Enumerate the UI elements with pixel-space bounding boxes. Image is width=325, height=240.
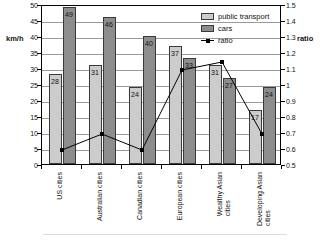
bar-cars-3 xyxy=(183,58,196,164)
bar-value-label: 17 xyxy=(247,114,264,121)
y-axis-right-tick-label: 1.1 xyxy=(286,66,316,73)
y-axis-left-tick-label: 45 xyxy=(8,18,38,25)
gridline xyxy=(42,102,280,103)
gridline xyxy=(42,118,280,119)
legend-swatch-icon xyxy=(201,25,214,32)
y-axis-left-tick-label: 50 xyxy=(8,2,38,9)
bar-value-label: 37 xyxy=(167,50,184,57)
y-axis-left-tickmark xyxy=(37,117,41,118)
y-axis-right-tick-label: 1.5 xyxy=(286,2,316,9)
x-axis-tickmark xyxy=(41,165,42,169)
y-axis-left-tick-label: 15 xyxy=(8,114,38,121)
x-axis-tickmark xyxy=(161,165,162,169)
y-axis-left-tick-label: 35 xyxy=(8,50,38,57)
y-axis-right-tickmark xyxy=(281,101,285,102)
x-axis-tickmark xyxy=(81,165,82,169)
x-axis-category-label: Wealthy Asian cities xyxy=(216,172,232,216)
y-axis-right-tickmark xyxy=(281,85,285,86)
bar-pt-0 xyxy=(49,74,62,164)
y-axis-left-tick-label: 0 xyxy=(8,162,38,169)
ratio-marker xyxy=(220,60,224,64)
y-axis-right-tickmark xyxy=(281,133,285,134)
y-axis-right-tick-label: 0.8 xyxy=(286,114,316,121)
bar-value-label: 24 xyxy=(127,91,144,98)
y-axis-left-tickmark xyxy=(37,37,41,38)
y-axis-left-tickmark xyxy=(37,133,41,134)
bar-value-label: 28 xyxy=(47,78,64,85)
y-axis-right-tick-label: 0.7 xyxy=(286,130,316,137)
y-axis-right-tickmark xyxy=(281,69,285,70)
bar-cars-2 xyxy=(143,36,156,164)
x-axis-category-label: European cities xyxy=(176,172,184,220)
y-axis-right-tickmark xyxy=(281,5,285,6)
y-axis-right-tick-label: 0.5 xyxy=(286,162,316,169)
x-axis-category-label: Developing Asian cities xyxy=(256,172,272,226)
bar-value-label: 49 xyxy=(61,11,78,18)
x-axis-tickmark xyxy=(121,165,122,169)
legend-item[interactable]: cars xyxy=(201,23,296,34)
bar-value-label: 24 xyxy=(261,91,278,98)
y-axis-left-tickmark xyxy=(37,69,41,70)
bar-value-label: 40 xyxy=(141,40,158,47)
bar-cars-0 xyxy=(63,7,76,164)
gridline xyxy=(42,134,280,135)
gridline xyxy=(42,86,280,87)
gridline xyxy=(42,70,280,71)
legend-item[interactable]: ratio xyxy=(201,35,296,46)
chart-legend: public transportcarsratio xyxy=(201,11,296,47)
chart-container: km/h ratio 284931462440373331271724 0510… xyxy=(0,0,325,240)
y-axis-right-tickmark xyxy=(281,53,285,54)
legend-swatch-icon xyxy=(201,13,214,20)
y-axis-left-tickmark xyxy=(37,21,41,22)
bar-cars-4 xyxy=(223,78,236,164)
legend-item[interactable]: public transport xyxy=(201,11,296,22)
x-axis-category-label: Australian cities xyxy=(96,172,104,221)
y-axis-left-tick-label: 20 xyxy=(8,98,38,105)
y-axis-left-tickmark xyxy=(37,85,41,86)
gridline xyxy=(42,54,280,55)
y-axis-left-tick-label: 40 xyxy=(8,34,38,41)
y-axis-right-tick-label: 0.9 xyxy=(286,98,316,105)
x-axis-tickmark xyxy=(241,165,242,169)
bar-value-label: 33 xyxy=(181,62,198,69)
legend-label: cars xyxy=(218,24,232,33)
legend-line-marker-icon xyxy=(201,37,214,44)
y-axis-right-tick-label: 1.2 xyxy=(286,50,316,57)
x-axis-tickmark xyxy=(201,165,202,169)
x-axis-category-label: US cities xyxy=(56,172,64,200)
bottom-divider xyxy=(43,234,287,235)
legend-label: public transport xyxy=(218,12,269,21)
y-axis-right-tickmark xyxy=(281,149,285,150)
y-axis-left-tickmark xyxy=(37,101,41,102)
bar-value-label: 27 xyxy=(221,82,238,89)
y-axis-left-tick-label: 30 xyxy=(8,66,38,73)
y-axis-left-tick-label: 10 xyxy=(8,130,38,137)
bar-cars-5 xyxy=(263,87,276,164)
x-axis-tickmark xyxy=(281,165,282,169)
gridline xyxy=(42,150,280,151)
bar-pt-1 xyxy=(89,65,102,164)
bar-cars-1 xyxy=(103,17,116,164)
bar-pt-4 xyxy=(209,65,222,164)
y-axis-right-tick-label: 0.6 xyxy=(286,146,316,153)
bar-value-label: 31 xyxy=(87,69,104,76)
y-axis-left-tick-label: 25 xyxy=(8,82,38,89)
y-axis-right-tickmark xyxy=(281,117,285,118)
y-axis-left-tickmark xyxy=(37,149,41,150)
x-axis-category-label: Canadian cities xyxy=(136,172,144,220)
bar-pt-2 xyxy=(129,87,142,164)
bar-value-label: 31 xyxy=(207,69,224,76)
y-axis-left-tickmark xyxy=(37,5,41,6)
y-axis-right-tick-label: 1 xyxy=(286,82,316,89)
y-axis-left-tickmark xyxy=(37,53,41,54)
y-axis-left-tick-label: 5 xyxy=(8,146,38,153)
bar-value-label: 46 xyxy=(101,21,118,28)
legend-label: ratio xyxy=(218,36,233,45)
